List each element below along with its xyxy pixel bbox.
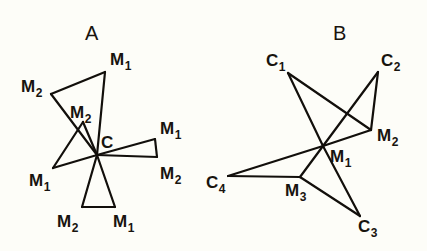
atom-label-panel-a-m2-upper-left: M2 (21, 77, 43, 100)
atom-label-panel-b-c2: C2 (381, 51, 401, 74)
diagram-svg: CM1M2M2M1M1M2M2M1M1C1C2M2C3M3C4 AB (0, 0, 427, 251)
atom-label-panel-a-m1-right: M1 (160, 119, 182, 142)
panel-title-panel-b: B (333, 22, 346, 44)
bond-m2-upper-left-to-m1-top (51, 72, 105, 94)
atom-label-panel-b-m2: M2 (377, 126, 399, 149)
figure-container: CM1M2M2M1M1M2M2M1M1C1C2M2C3M3C4 AB (0, 0, 427, 251)
atom-label-panel-a-m2-bottom: M2 (57, 212, 79, 235)
bond-m3-to-c3 (300, 177, 360, 216)
panel-title-layer: AB (85, 22, 346, 44)
atom-label-panel-a-m1-bottom: M1 (113, 212, 135, 235)
bond-center-c-to-m1-bottom (97, 155, 115, 207)
bond-center-c-to-m2-bottom (82, 155, 97, 207)
atom-label-panel-a-m1-lower-left: M1 (29, 171, 51, 194)
atom-label-panel-b-c3: C3 (358, 217, 378, 240)
bond-center-c-to-m2-right (97, 155, 157, 157)
bond-m1-center-to-c4 (228, 146, 323, 176)
bond-m3-to-c4 (228, 176, 300, 177)
atom-label-panel-b-c4: C4 (206, 173, 226, 196)
atom-label-panel-a-center-c: C (101, 133, 113, 152)
atom-label-panel-b-m3: M3 (285, 181, 307, 204)
atom-label-panel-b-c1: C1 (266, 51, 286, 74)
panel-title-panel-a: A (85, 22, 99, 44)
bond-m1-right-to-m2-right (155, 139, 157, 157)
atom-label-panel-a-m2-right: M2 (160, 164, 182, 187)
label-layer: CM1M2M2M1M1M2M2M1M1C1C2M2C3M3C4 (21, 50, 401, 240)
bond-c2-to-m1-center (323, 72, 378, 146)
atom-label-panel-a-m1-top: M1 (110, 50, 132, 73)
